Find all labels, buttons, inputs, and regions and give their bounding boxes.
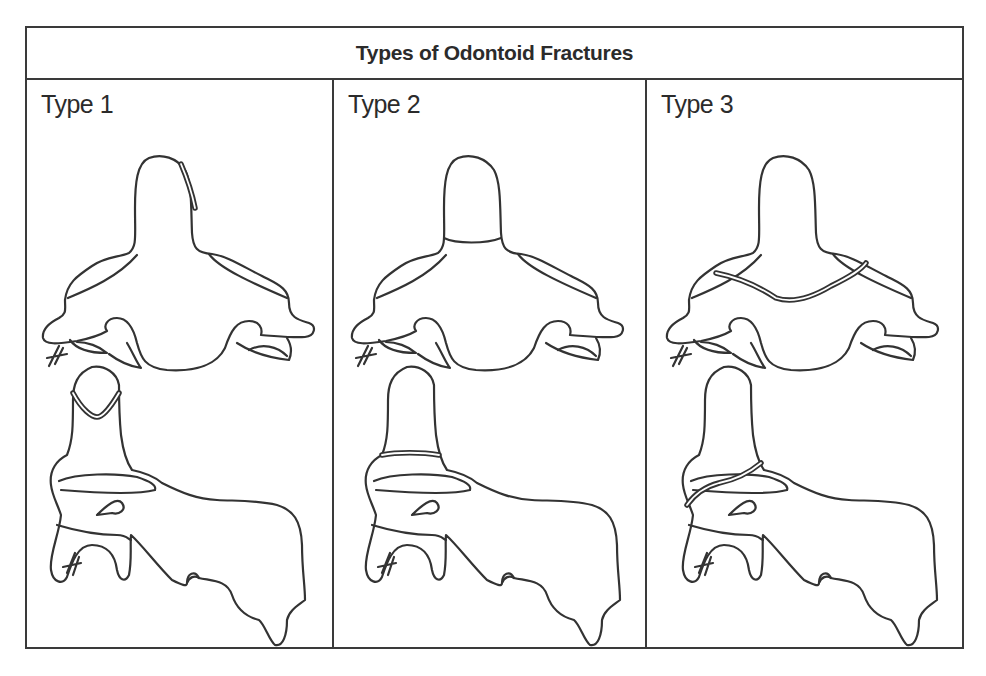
panel-type-1: Type 1 — [27, 80, 332, 647]
title-row: Types of Odontoid Fractures — [27, 28, 962, 80]
type-3-lateral-view — [683, 367, 937, 646]
figure-frame: Types of Odontoid Fractures Type 1 Type — [25, 26, 964, 649]
type-2-lateral-view — [366, 367, 620, 646]
type-3-anterior-view — [667, 156, 938, 370]
type-3-illustration — [647, 80, 964, 647]
type-2-illustration — [334, 80, 647, 647]
type-1-illustration — [27, 80, 332, 647]
type-2-anterior-view — [352, 156, 623, 370]
type-1-lateral-view — [51, 367, 305, 646]
fracture-line-icon — [716, 263, 866, 300]
fracture-line-icon — [687, 463, 761, 505]
figure-title: Types of Odontoid Fractures — [356, 41, 633, 65]
panels: Type 1 Type 2 — [27, 80, 962, 647]
fracture-line-icon — [444, 238, 501, 243]
type-1-anterior-view — [43, 156, 314, 370]
panel-type-2: Type 2 — [332, 80, 645, 647]
panel-type-3: Type 3 — [645, 80, 962, 647]
